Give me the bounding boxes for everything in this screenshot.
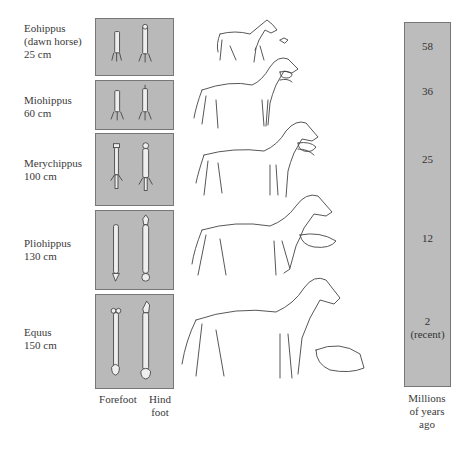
merychippus-horse-icon <box>196 122 318 197</box>
eohippus-horse-icon <box>217 20 288 62</box>
foot-bones-icon <box>96 295 173 388</box>
species-name: Merychippus <box>24 157 82 170</box>
timeline-value-eohippus: 58 <box>405 40 450 53</box>
hindfoot-label-line1: Hind <box>144 393 176 406</box>
timeline-bar: 58 36 25 12 2 (recent) <box>404 22 451 387</box>
species-name: Miohippus <box>24 94 72 107</box>
species-name: Equus <box>24 326 57 339</box>
equus-horse-icon <box>182 278 364 378</box>
pliohippus-horse-icon <box>192 195 336 275</box>
species-height: 130 cm <box>24 250 71 263</box>
species-height: 60 cm <box>24 107 72 120</box>
foot-bones-icon <box>96 134 173 205</box>
species-height: 150 cm <box>24 339 57 352</box>
species-label-miohippus: Miohippus 60 cm <box>24 94 72 120</box>
species-label-merychippus: Merychippus 100 cm <box>24 157 82 183</box>
species-height: 25 cm <box>24 48 82 61</box>
foot-bones-icon <box>96 19 173 75</box>
timeline-value-note: (recent) <box>405 328 450 341</box>
species-name: Eohippus <box>24 22 82 35</box>
timeline-value-merychippus: 25 <box>405 153 450 166</box>
foot-bones-icon <box>96 211 173 289</box>
timeline-value-miohippus: 36 <box>405 85 450 98</box>
species-label-eohippus: Eohippus (dawn horse) 25 cm <box>24 22 82 61</box>
hindfoot-label-line2: foot <box>144 406 176 419</box>
foot-panel-equus <box>95 294 174 389</box>
species-label-pliohippus: Pliohippus 130 cm <box>24 237 71 263</box>
timeline-label-line2: of years <box>396 405 458 418</box>
species-height: 100 cm <box>24 170 82 183</box>
species-label-equus: Equus 150 cm <box>24 326 57 352</box>
foot-bones-icon <box>96 81 173 129</box>
species-alias: (dawn horse) <box>24 35 82 48</box>
miohippus-horse-icon <box>194 58 298 128</box>
timeline-label-line3: ago <box>396 418 458 431</box>
hindfoot-column-label: Hind foot <box>144 393 176 419</box>
foot-panel-eohippus <box>95 18 174 76</box>
timeline-value-pliohippus: 12 <box>405 232 450 245</box>
foot-panel-merychippus <box>95 133 174 206</box>
timeline-value-number: 2 <box>405 315 450 328</box>
foot-panel-pliohippus <box>95 210 174 290</box>
forefoot-column-label: Forefoot <box>96 393 140 406</box>
timeline-label-line1: Millions <box>396 392 458 405</box>
foot-panel-miohippus <box>95 80 174 130</box>
horse-illustrations <box>180 10 390 410</box>
species-name: Pliohippus <box>24 237 71 250</box>
timeline-axis-label: Millions of years ago <box>396 392 458 431</box>
timeline-value-equus: 2 (recent) <box>405 315 450 341</box>
